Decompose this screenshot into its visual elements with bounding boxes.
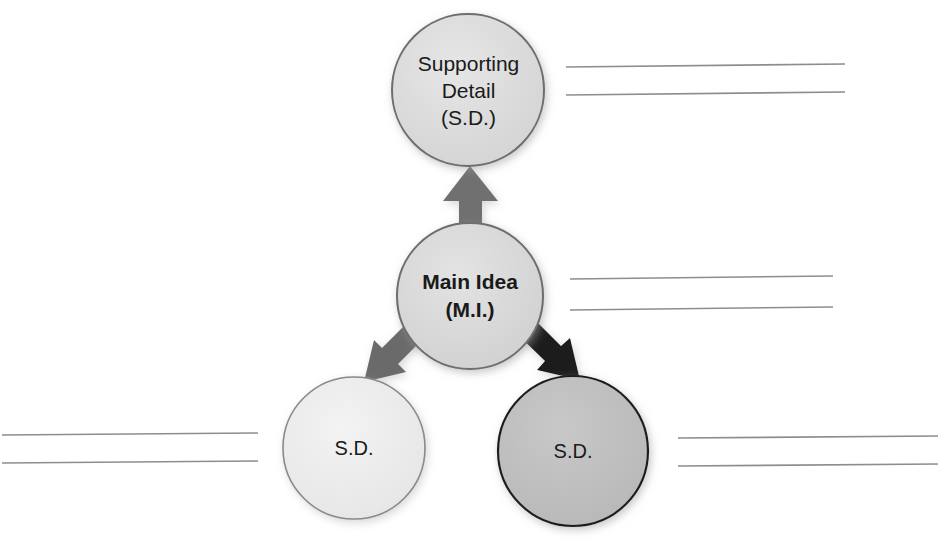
- writing-lines-bottom-left: [2, 433, 258, 463]
- node-sd-top[interactable]: [392, 14, 544, 166]
- writing-line: [570, 307, 833, 310]
- writing-lines-bottom-right: [678, 436, 938, 466]
- writing-line: [678, 436, 938, 438]
- writing-line: [2, 461, 258, 463]
- writing-lines-top-right: [566, 64, 845, 95]
- writing-line: [566, 64, 845, 67]
- writing-line: [678, 464, 938, 466]
- writing-line: [570, 276, 833, 279]
- writing-line: [2, 433, 258, 435]
- writing-line: [566, 92, 845, 95]
- writing-lines-main-right: [570, 276, 833, 310]
- node-main-idea[interactable]: [397, 223, 543, 369]
- node-sd-bottom-left[interactable]: [283, 377, 425, 519]
- node-sd-bottom-right[interactable]: [498, 376, 648, 526]
- diagram-graphics: [0, 0, 945, 542]
- diagram-canvas: Supporting Detail (S.D.) Main Idea (M.I.…: [0, 0, 945, 542]
